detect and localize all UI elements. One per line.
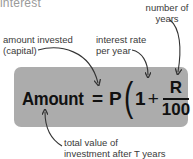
annotation-arrows	[0, 0, 193, 159]
rate-arrow-icon	[132, 50, 148, 75]
years-arrow-icon	[170, 20, 180, 72]
total-arrow-icon	[45, 112, 62, 146]
capital-arrow-icon	[38, 48, 98, 83]
